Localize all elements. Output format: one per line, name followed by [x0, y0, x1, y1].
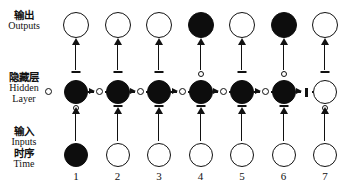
recurrent-arrow-3-to-gate — [171, 91, 177, 92]
gate-open-icon — [45, 88, 52, 95]
output-node-2 — [105, 12, 131, 38]
arrow-input-to-hidden-5 — [241, 113, 242, 141]
timestep-column-4: 4 — [180, 0, 222, 191]
recurrent-arrow-6-to-gate — [296, 91, 302, 92]
output-gate-6 — [281, 71, 287, 77]
input-node-2 — [106, 143, 130, 167]
output-node-4 — [188, 12, 214, 38]
input-node-4 — [189, 143, 213, 167]
time-tick-5: 5 — [221, 170, 263, 182]
arrow-hidden-to-output-1 — [75, 44, 76, 70]
time-tick-2: 2 — [97, 170, 139, 182]
output-node-5 — [229, 12, 255, 38]
time-tick-6: 6 — [263, 170, 305, 182]
gate-closed-icon — [113, 71, 122, 73]
output-node-1 — [63, 12, 89, 38]
arrow-input-to-hidden-1 — [75, 113, 76, 141]
output-node-7 — [312, 12, 338, 38]
gate-closed-icon — [321, 71, 330, 73]
hidden-node-4 — [189, 80, 213, 104]
hidden-node-1 — [64, 80, 88, 104]
input-node-6 — [272, 143, 296, 167]
input-node-5 — [230, 143, 254, 167]
hidden-node-7 — [313, 80, 337, 104]
output-node-6 — [271, 12, 297, 38]
output-gate-4 — [198, 71, 204, 77]
timestep-column-5: 5 — [221, 0, 263, 191]
gate-open-icon — [198, 71, 204, 77]
recurrent-gate-initial — [45, 88, 52, 95]
time-tick-4: 4 — [180, 170, 222, 182]
output-gate-7 — [321, 71, 330, 73]
timestep-column-2: 2 — [97, 0, 139, 191]
recurrent-arrow-4-to-gate — [213, 91, 219, 92]
time-tick-3: 3 — [138, 170, 180, 182]
row-label-hidden-layer: 隐藏层 Hidden Layer — [0, 72, 48, 104]
arrow-input-to-hidden-6 — [283, 113, 284, 141]
arrow-hidden-to-output-4 — [200, 44, 201, 70]
timestep-column-7: 7 — [304, 0, 346, 191]
timestep-column-1: 1 — [55, 0, 97, 191]
output-gate-3 — [155, 71, 164, 73]
gate-open-icon — [281, 71, 287, 77]
gate-closed-icon — [238, 71, 247, 73]
time-tick-1: 1 — [55, 170, 97, 182]
timestep-column-6: 6 — [263, 0, 305, 191]
arrow-input-to-hidden-7 — [324, 113, 325, 141]
arrow-input-to-hidden-3 — [158, 113, 159, 141]
hidden-node-3 — [147, 80, 171, 104]
arrow-hidden-to-output-6 — [283, 44, 284, 70]
input-node-3 — [147, 143, 171, 167]
row-label-outputs-en: Outputs — [0, 21, 48, 32]
output-gate-1 — [72, 71, 81, 73]
arrow-hidden-to-output-5 — [241, 44, 242, 70]
row-label-inputs-en: Inputs — [0, 137, 48, 148]
recurrent-arrow-2-to-gate — [130, 91, 136, 92]
row-label-outputs: 输出 Outputs — [0, 10, 48, 32]
input-node-7 — [313, 143, 337, 167]
row-label-time-en: Time — [0, 159, 48, 170]
arrow-hidden-to-output-7 — [324, 44, 325, 70]
output-node-3 — [146, 12, 172, 38]
row-label-inputs: 输入 Inputs 时序 Time — [0, 126, 48, 169]
hidden-node-6 — [272, 80, 296, 104]
row-label-hidden-en: Hidden — [0, 83, 48, 94]
output-gate-5 — [238, 71, 247, 73]
output-gate-2 — [113, 71, 122, 73]
input-node-1 — [64, 143, 88, 167]
timestep-column-3: 3 — [138, 0, 180, 191]
time-tick-7: 7 — [304, 170, 346, 182]
arrow-hidden-to-output-3 — [158, 44, 159, 70]
arrow-hidden-to-output-2 — [117, 44, 118, 70]
hidden-node-5 — [230, 80, 254, 104]
recurrent-arrow-1-to-gate — [88, 91, 94, 92]
hidden-node-2 — [106, 80, 130, 104]
row-label-hidden-en2: Layer — [0, 94, 48, 105]
arrow-input-to-hidden-2 — [117, 113, 118, 141]
recurrent-arrow-5-to-gate — [254, 91, 260, 92]
lstm-gate-timeline-diagram: 输出 Outputs 隐藏层 Hidden Layer 输入 Inputs 时序… — [0, 0, 349, 191]
row-label-time-cn: 时序 — [0, 148, 48, 159]
arrow-input-to-hidden-4 — [200, 113, 201, 141]
gate-closed-icon — [72, 71, 81, 73]
gate-closed-icon — [155, 71, 164, 73]
